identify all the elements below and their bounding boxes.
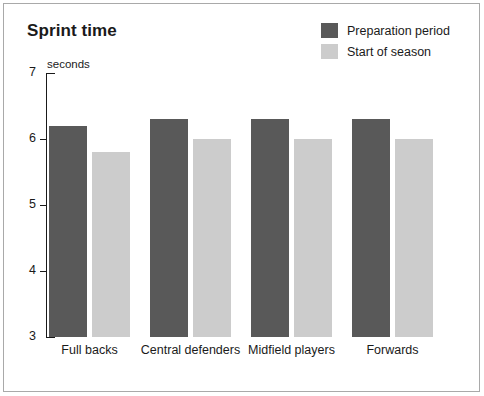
bar (251, 119, 289, 337)
bar (294, 139, 332, 337)
bar (92, 152, 130, 337)
bar (49, 126, 87, 337)
plot-area: Full backsCentral defendersMidfield play… (0, 0, 484, 396)
bar (395, 139, 433, 337)
x-axis-category-label: Forwards (322, 343, 463, 357)
chart-figure: Sprint time Preparation period Start of … (0, 0, 484, 396)
bar (193, 139, 231, 337)
bar (352, 119, 390, 337)
bar (150, 119, 188, 337)
